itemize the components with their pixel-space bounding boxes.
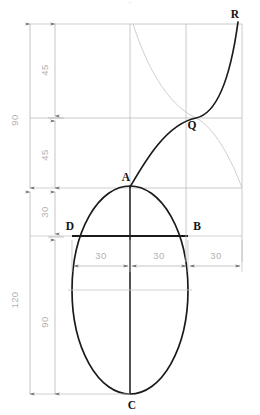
main-curve-group — [130, 22, 238, 187]
dim-30-mid: 30 — [153, 250, 164, 261]
main-curve-a-q-r — [130, 22, 238, 187]
point-label-b: B — [193, 220, 201, 232]
point-label-r: R — [231, 8, 240, 20]
point-label-a: A — [122, 171, 131, 183]
figure-svg: 90 45 45 120 30 90 — [0, 0, 260, 415]
point-label-group: R Q A B D C — [66, 8, 240, 411]
top-artifact-mark: * — [128, 0, 132, 9]
point-label-c: C — [128, 399, 136, 411]
dim-30-right: 30 — [210, 250, 221, 261]
dim-45-upper: 45 — [39, 64, 50, 75]
horizontal-dimension-group: 30 30 30 — [72, 240, 242, 272]
construction-curve-group — [133, 24, 242, 188]
vertical-dimension-group-lower: 120 30 90 — [9, 192, 64, 394]
ellipse-group — [30, 186, 242, 394]
engineering-drawing: 90 45 45 120 30 90 — [0, 0, 260, 415]
dim-90-lower: 90 — [39, 316, 50, 327]
dim-90-upper: 90 — [9, 114, 20, 125]
ghost-curve-descending — [133, 24, 242, 188]
dim-45-lower: 45 — [39, 149, 50, 160]
vertical-dimension-group-upper: 90 45 45 — [9, 24, 64, 188]
dim-120: 120 — [9, 291, 20, 308]
dim-30-vert: 30 — [39, 206, 50, 217]
point-label-q: Q — [188, 119, 197, 131]
grid-group — [30, 24, 242, 188]
point-label-d: D — [66, 220, 74, 232]
dim-30-left: 30 — [95, 250, 106, 261]
